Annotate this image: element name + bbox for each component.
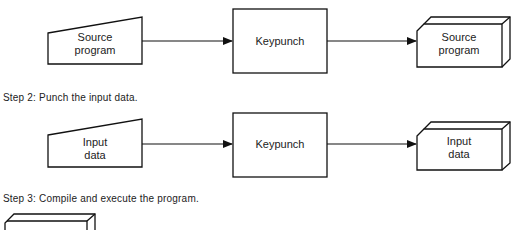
input-data-label-1: Input	[83, 136, 107, 148]
source-program-input-shape: Source program	[48, 17, 142, 64]
keypunch-process-box-2: Keypunch	[233, 113, 327, 177]
deck-label-1: Source	[442, 31, 477, 43]
row-2: Input data Keypunch Input data	[48, 113, 510, 177]
keypunch-process-box: Keypunch	[233, 9, 327, 73]
input-data-label-2: data	[84, 149, 106, 161]
source-program-card-deck: Source program	[417, 17, 510, 67]
source-program-label-1: Source	[78, 31, 113, 43]
row-3-partial-card-deck	[5, 214, 95, 230]
input-data-input-shape: Input data	[48, 119, 142, 167]
keypunch-label-2: Keypunch	[256, 138, 305, 150]
row-1: Source program Keypunch Source program	[48, 9, 510, 73]
deck-label-2: program	[439, 44, 480, 56]
step-3-label: Step 3: Compile and execute the program.	[3, 193, 199, 204]
input-data-card-deck: Input data	[417, 122, 510, 170]
deck-label-2-1: Input	[447, 135, 471, 147]
keypunch-label: Keypunch	[256, 35, 305, 47]
source-program-label-2: program	[75, 44, 116, 56]
deck-label-2-2: data	[448, 148, 470, 160]
step-2-label: Step 2: Punch the input data.	[3, 92, 138, 103]
